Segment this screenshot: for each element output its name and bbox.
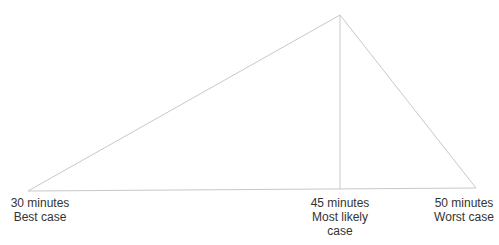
label-worst-case: 50 minutes Worst case (430, 196, 498, 224)
most-likely-title-line1: Most likely (306, 210, 374, 224)
label-best-case: 30 minutes Best case (6, 196, 74, 224)
most-likely-title-line2: case (306, 224, 374, 238)
most-likely-time: 45 minutes (306, 196, 374, 210)
worst-case-title: Worst case (430, 210, 498, 224)
worst-case-time: 50 minutes (430, 196, 498, 210)
triangle-outline (28, 15, 476, 191)
triangle-diagram (0, 0, 499, 245)
best-case-time: 30 minutes (6, 196, 74, 210)
best-case-title: Best case (6, 210, 74, 224)
label-most-likely-case: 45 minutes Most likely case (306, 196, 374, 238)
